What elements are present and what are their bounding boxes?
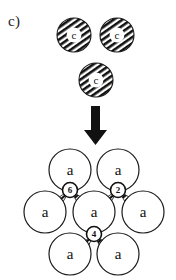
product-label-a: a (115, 246, 122, 262)
junction-node-2: 2 (111, 183, 126, 198)
reactant-label-c: c (115, 29, 120, 41)
junction-label: 4 (92, 229, 97, 239)
product-node-a-bottom-left: a (49, 233, 91, 275)
product-label-a: a (91, 204, 98, 220)
reactant-label-c: c (94, 74, 99, 86)
product-node-a-mid-left: a (24, 191, 66, 233)
panel-label: c) (8, 13, 20, 30)
reactant-node-c-top-left: c (57, 18, 91, 52)
junction-label: 2 (116, 185, 121, 195)
downward-reaction-arrow-icon (84, 106, 107, 145)
product-label-a: a (140, 204, 147, 220)
junction-node-6: 6 (63, 183, 78, 198)
figure-canvas: c c c (0, 0, 176, 280)
reactant-group: c c c (57, 18, 134, 97)
product-label-a: a (67, 246, 74, 262)
product-node-a-bottom-right: a (97, 233, 139, 275)
junction-node-4: 4 (87, 227, 102, 242)
product-node-a-mid-right: a (122, 191, 164, 233)
product-label-a: a (42, 204, 49, 220)
product-cluster: a a a a a a (24, 149, 164, 275)
reactant-node-c-top-right: c (100, 18, 134, 52)
figure-panel-c: c) c c (0, 0, 176, 280)
product-label-a: a (115, 162, 122, 178)
product-label-a: a (67, 162, 74, 178)
reactant-label-c: c (72, 29, 77, 41)
junction-label: 6 (68, 185, 73, 195)
reactant-node-c-bottom: c (79, 63, 113, 97)
